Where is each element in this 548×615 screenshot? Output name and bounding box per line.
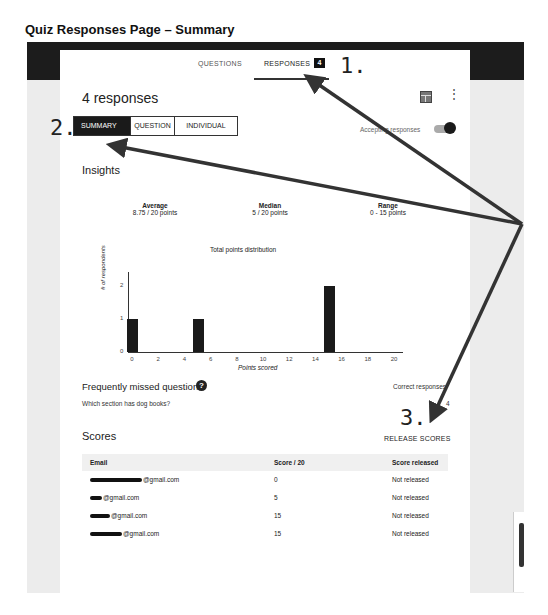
annotation-arrows [0,0,548,615]
callout-3: 3. [400,405,427,430]
callout-1: 1. [340,53,367,78]
callout-2: 2. [50,115,77,140]
